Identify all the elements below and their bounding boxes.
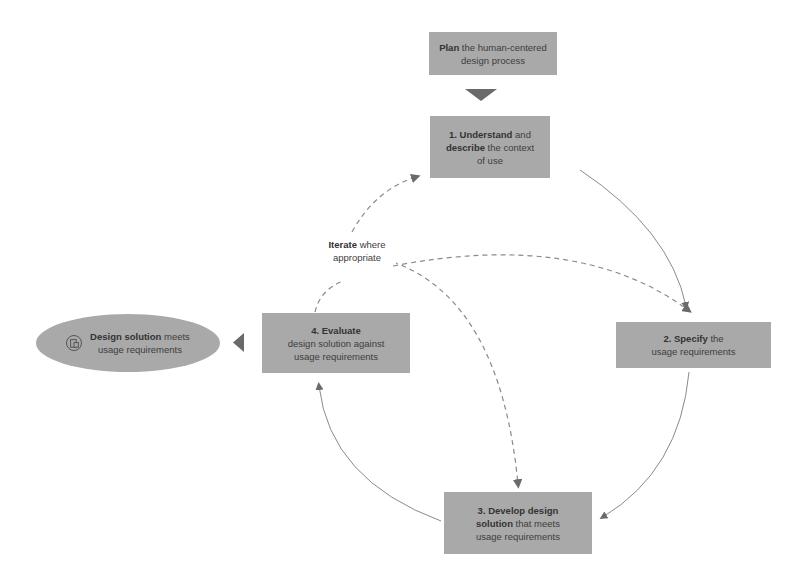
plan-down-arrow: [465, 89, 497, 101]
outcome-left-arrow: [233, 333, 244, 352]
iterate-label: Iterate where appropriate: [318, 238, 396, 264]
connector-arrows: [0, 0, 797, 586]
plan-box: Plan the human-centered design process: [429, 32, 557, 75]
device-icon: [66, 335, 82, 351]
step1-understand-box: 1. Understand and describe the context o…: [430, 116, 550, 178]
outcome-ellipse: Design solution meets usage requirements: [36, 314, 220, 372]
step2-specify-box: 2. Specify the usage requirements: [616, 322, 771, 368]
step4-evaluate-box: 4. Evaluate design solution against usag…: [262, 313, 410, 373]
step3-develop-box: 3. Develop design solution that meets us…: [444, 492, 592, 554]
